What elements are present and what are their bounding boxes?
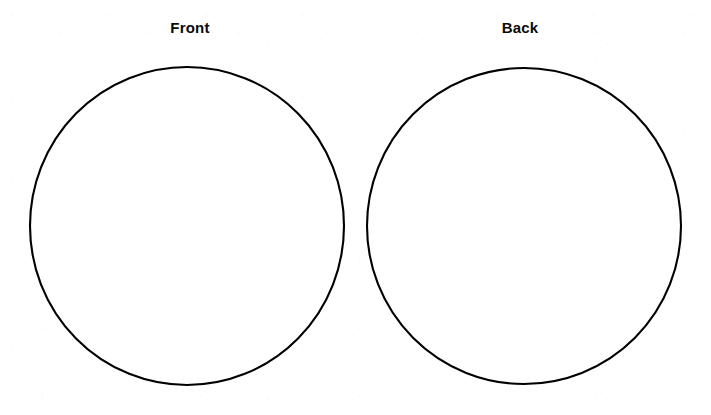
circle-outline-front[interactable] bbox=[27, 64, 347, 388]
worksheet-canvas: Front Back bbox=[0, 0, 711, 415]
panel-label-front: Front bbox=[90, 19, 290, 37]
panel-label-back: Back bbox=[420, 19, 620, 37]
circle-outline-back[interactable] bbox=[364, 66, 684, 390]
